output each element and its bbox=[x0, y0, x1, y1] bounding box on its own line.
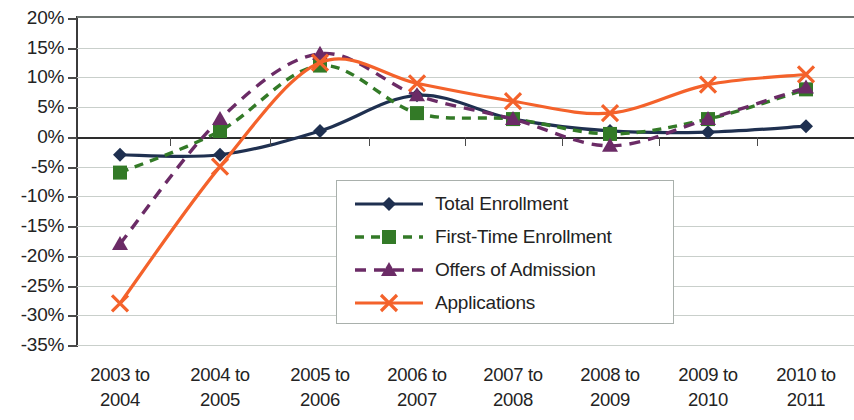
x-tick-label: 2008 to2009 bbox=[580, 362, 640, 412]
data-point-marker bbox=[113, 148, 127, 162]
legend-label-applications: Applications bbox=[435, 292, 535, 314]
data-point-marker bbox=[799, 119, 813, 133]
y-tick-mark bbox=[68, 48, 77, 50]
legend-swatch-applications bbox=[353, 293, 425, 313]
x-tick-mark bbox=[562, 137, 563, 146]
x-tick-mark bbox=[270, 137, 271, 146]
x-tick-label: 2010 to2011 bbox=[776, 362, 836, 412]
chart-legend: Total Enrollment First-Time Enrollment O… bbox=[336, 180, 674, 324]
y-tick-mark bbox=[68, 77, 77, 79]
y-tick-mark bbox=[68, 226, 77, 228]
y-tick-mark bbox=[68, 167, 77, 169]
x-tick-mark bbox=[659, 137, 660, 146]
y-tick-mark bbox=[68, 196, 77, 198]
x-tick-mark bbox=[170, 137, 171, 146]
data-point-marker bbox=[213, 124, 227, 138]
data-point-marker bbox=[313, 124, 327, 138]
legend-label-first-time-enrollment: First-Time Enrollment bbox=[435, 226, 612, 248]
x-tick-label: 2005 to2006 bbox=[290, 362, 350, 412]
x-tick-mark bbox=[369, 137, 370, 146]
data-point-marker bbox=[382, 230, 396, 244]
legend-item-total-enrollment[interactable]: Total Enrollment bbox=[337, 187, 673, 220]
x-axis: 2003 to20042004 to20052005 to20062006 to… bbox=[0, 358, 854, 420]
x-tick-label: 2006 to2007 bbox=[387, 362, 447, 412]
x-tick-mark bbox=[757, 137, 758, 146]
data-point-marker bbox=[212, 111, 228, 125]
legend-item-first-time-enrollment[interactable]: First-Time Enrollment bbox=[337, 220, 673, 253]
legend-swatch-offers-of-admission bbox=[353, 260, 425, 280]
x-tick-label: 2003 to2004 bbox=[90, 362, 150, 412]
legend-swatch-total-enrollment bbox=[353, 194, 425, 214]
x-tick-mark bbox=[465, 137, 466, 146]
y-tick-mark bbox=[68, 137, 77, 139]
y-tick-mark bbox=[68, 286, 77, 288]
legend-item-applications[interactable]: Applications bbox=[337, 286, 673, 319]
legend-item-offers-of-admission[interactable]: Offers of Admission bbox=[337, 253, 673, 286]
y-tick-mark bbox=[68, 345, 77, 347]
x-tick-label: 2007 to2008 bbox=[483, 362, 543, 412]
data-point-marker bbox=[113, 166, 127, 180]
x-tick-label: 2009 to2010 bbox=[678, 362, 738, 412]
x-tick-label: 2004 to2005 bbox=[190, 362, 250, 412]
data-point-marker bbox=[112, 295, 128, 311]
legend-swatch-first-time-enrollment bbox=[353, 227, 425, 247]
data-point-marker bbox=[382, 197, 396, 211]
y-tick-mark bbox=[68, 18, 77, 20]
data-point-marker bbox=[410, 106, 424, 120]
legend-label-offers-of-admission: Offers of Admission bbox=[435, 259, 596, 281]
y-tick-mark bbox=[68, 315, 77, 317]
legend-label-total-enrollment: Total Enrollment bbox=[435, 193, 568, 215]
chart-container: 20%15%10%5%0%-5%-10%-15%-20%-25%-30%-35%… bbox=[0, 0, 854, 420]
y-tick-mark bbox=[68, 107, 77, 109]
data-point-marker bbox=[701, 125, 715, 139]
y-tick-mark bbox=[68, 256, 77, 258]
